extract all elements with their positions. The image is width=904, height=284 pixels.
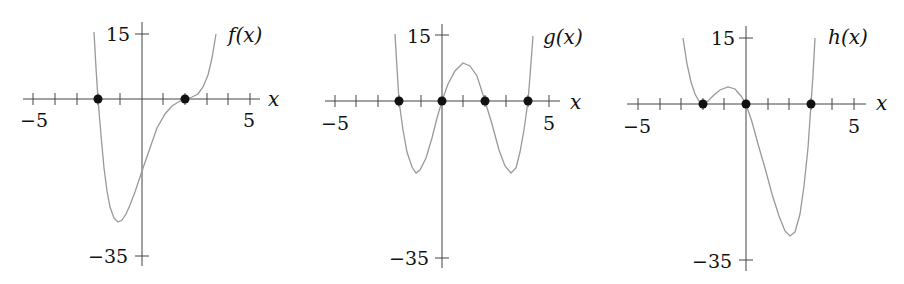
x-axis-label: x bbox=[268, 87, 279, 111]
function-plots: 15 −35 −5 5 x f(x) 15 −35 −5 5 x g(x) bbox=[0, 0, 904, 284]
root-dot bbox=[742, 100, 751, 109]
x-axis-label: x bbox=[876, 91, 887, 115]
function-label: g(x) bbox=[543, 25, 583, 49]
y-min-label: −35 bbox=[692, 250, 732, 272]
root-dot bbox=[94, 95, 103, 104]
plot-h: 15 −35 −5 5 x h(x) bbox=[623, 25, 887, 272]
function-label: h(x) bbox=[828, 25, 868, 49]
x-min-label: −5 bbox=[321, 112, 349, 134]
plot-g: 15 −35 −5 5 x g(x) bbox=[321, 24, 583, 269]
y-min-label: −35 bbox=[88, 245, 128, 267]
y-max-label: 15 bbox=[106, 23, 130, 45]
y-min-label: −35 bbox=[389, 247, 429, 269]
f-curve bbox=[94, 32, 216, 222]
y-max-label: 15 bbox=[407, 25, 431, 47]
root-dot bbox=[524, 97, 533, 106]
root-dot bbox=[395, 97, 404, 106]
x-axis-label: x bbox=[570, 90, 581, 114]
x-min-label: −5 bbox=[20, 109, 48, 131]
root-dot bbox=[481, 97, 490, 106]
root-dot bbox=[181, 95, 190, 104]
x-max-label: 5 bbox=[543, 112, 555, 134]
root-dot bbox=[438, 97, 447, 106]
g-curve bbox=[395, 34, 533, 173]
h-curve bbox=[683, 38, 815, 236]
root-dot bbox=[699, 100, 708, 109]
y-max-label: 15 bbox=[711, 27, 735, 49]
x-max-label: 5 bbox=[243, 109, 255, 131]
function-label: f(x) bbox=[226, 23, 262, 47]
root-dot bbox=[807, 100, 816, 109]
x-max-label: 5 bbox=[848, 115, 860, 137]
x-min-label: −5 bbox=[623, 115, 651, 137]
plot-f: 15 −35 −5 5 x f(x) bbox=[20, 22, 279, 267]
